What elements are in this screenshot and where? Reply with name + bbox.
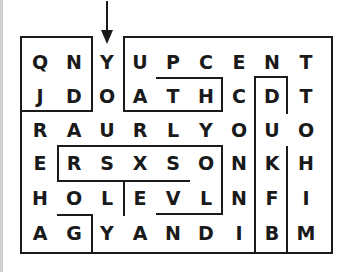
grid-cell: P: [158, 47, 188, 77]
grid-cell: I: [291, 183, 321, 213]
grid-cell: V: [158, 183, 188, 213]
grid-cell: O: [92, 81, 122, 111]
grid-cell: N: [224, 148, 254, 178]
grid-cell: A: [25, 218, 55, 248]
grid-cell: T: [291, 81, 321, 111]
grid-cell: Y: [92, 218, 122, 248]
grid-cell: T: [291, 47, 321, 77]
grid-cell: U: [125, 47, 155, 77]
grid-cell: M: [291, 218, 321, 248]
grid-cell: E: [125, 183, 155, 213]
grid-cell: O: [224, 115, 254, 145]
grid-cell: L: [158, 115, 188, 145]
grid-cell: S: [158, 148, 188, 178]
grid-cell: H: [191, 81, 221, 111]
grid-cell: X: [125, 148, 155, 178]
grid-cell: R: [125, 115, 155, 145]
grid-cell: D: [191, 218, 221, 248]
grid-cell: B: [257, 218, 287, 248]
grid-cell: Y: [191, 115, 221, 145]
grid-cell: C: [191, 47, 221, 77]
grid-cell: O: [59, 183, 89, 213]
grid-cell: H: [25, 183, 55, 213]
grid-cell: J: [25, 81, 55, 111]
grid-cell: A: [59, 115, 89, 145]
grid-cell: N: [59, 47, 89, 77]
grid-cell: D: [257, 81, 287, 111]
grid-cell: F: [257, 183, 287, 213]
grid-cell: S: [92, 148, 122, 178]
grid-cell: T: [158, 81, 188, 111]
grid-cell: O: [291, 115, 321, 145]
grid-cell: I: [224, 218, 254, 248]
grid-cell: Y: [92, 47, 122, 77]
grid-cell: R: [25, 115, 55, 145]
grid-cell: L: [191, 183, 221, 213]
grid-cell: G: [59, 218, 89, 248]
grid-cell: A: [125, 81, 155, 111]
start-arrow-head: [101, 30, 113, 44]
grid-cell: D: [59, 81, 89, 111]
grid-cell: E: [224, 47, 254, 77]
grid-cell: N: [257, 47, 287, 77]
grid-cell: Q: [25, 47, 55, 77]
grid-cell: N: [224, 183, 254, 213]
grid-cell: C: [224, 81, 254, 111]
grid-cell: U: [257, 115, 287, 145]
grid-cell: R: [59, 148, 89, 178]
grid-cell: N: [158, 218, 188, 248]
grid-cell: H: [291, 148, 321, 178]
grid-cell: L: [92, 183, 122, 213]
grid-cell: U: [92, 115, 122, 145]
grid-cell: O: [191, 148, 221, 178]
grid-cell: A: [125, 218, 155, 248]
grid-cell: E: [25, 148, 55, 178]
grid-cell: K: [257, 148, 287, 178]
